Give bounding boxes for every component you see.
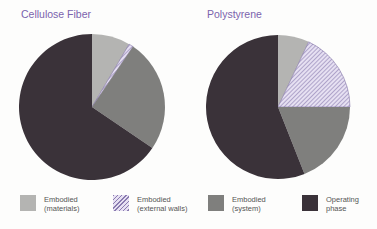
pie-charts bbox=[0, 0, 377, 190]
legend-label: (external walls) bbox=[137, 204, 187, 213]
legend-item-operating: Operatingphase bbox=[302, 195, 359, 213]
legend-label: (materials) bbox=[44, 204, 79, 213]
pie-polystyrene bbox=[206, 35, 350, 179]
legend-label: Operating bbox=[326, 195, 359, 204]
legend-label: Embodied bbox=[137, 195, 187, 204]
swatch-system bbox=[208, 195, 224, 211]
legend-label: (system) bbox=[232, 204, 266, 213]
legend-item-system: Embodied(system) bbox=[208, 195, 266, 213]
pie-cellulose-fiber bbox=[19, 34, 165, 180]
legend-label: phase bbox=[326, 204, 359, 213]
legend-label: Embodied bbox=[232, 195, 266, 204]
legend-item-materials: Embodied(materials) bbox=[20, 195, 79, 213]
legend-item-external-walls: Embodied(external walls) bbox=[113, 195, 187, 213]
swatch-external-walls bbox=[113, 195, 129, 211]
legend-label: Embodied bbox=[44, 195, 79, 204]
swatch-materials bbox=[20, 195, 36, 211]
swatch-operating bbox=[302, 195, 318, 211]
